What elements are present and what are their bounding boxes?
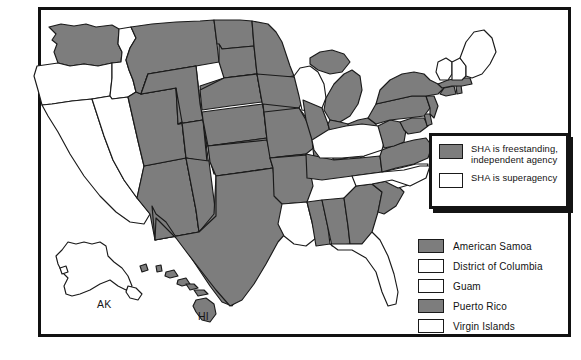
legend-item-superagency: SHA is superagency: [439, 172, 560, 188]
legend-panel: SHA is freestanding, independent agency …: [429, 133, 569, 209]
territory-label-district-of-columbia: District of Columbia: [453, 261, 543, 272]
territory-swatch-guam: [418, 279, 444, 293]
territories-legend: American Samoa District of Columbia Guam…: [418, 236, 568, 336]
territory-label-guam: Guam: [453, 281, 481, 292]
territory-swatch-puerto-rico: [418, 299, 444, 313]
legend-swatch-superagency: [439, 173, 463, 188]
hawaii-label: HI: [198, 310, 209, 322]
territory-label-puerto-rico: Puerto Rico: [453, 301, 507, 312]
territory-label-virgin-islands: Virgin Islands: [453, 321, 515, 332]
legend-item-guam: Guam: [418, 276, 568, 296]
legend-item-freestanding: SHA is freestanding, independent agency: [439, 143, 560, 165]
legend-label-superagency: SHA is superagency: [471, 172, 557, 183]
legend-item-virgin-islands: Virgin Islands: [418, 316, 568, 336]
legend-swatch-freestanding: [439, 144, 463, 159]
choropleth-figure: AK HI SHA is freestanding, independent a…: [0, 0, 581, 360]
legend-item-puerto-rico: Puerto Rico: [418, 296, 568, 316]
legend-label-freestanding: SHA is freestanding, independent agency: [471, 143, 560, 165]
territory-swatch-american-samoa: [418, 239, 444, 253]
territory-swatch-district-of-columbia: [418, 259, 444, 273]
map-legend: SHA is freestanding, independent agency …: [429, 133, 569, 209]
alaska-label: AK: [97, 298, 111, 310]
territory-label-american-samoa: American Samoa: [453, 241, 532, 252]
legend-item-american-samoa: American Samoa: [418, 236, 568, 256]
territory-swatch-virgin-islands: [418, 319, 444, 333]
legend-item-district-of-columbia: District of Columbia: [418, 256, 568, 276]
